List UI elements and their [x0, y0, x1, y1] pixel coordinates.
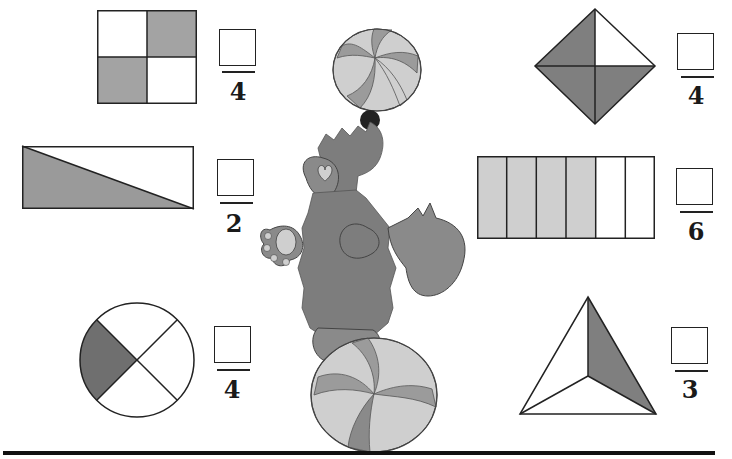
numerator-input-circle[interactable]	[214, 326, 251, 363]
rectangle-halves-figure	[22, 146, 194, 209]
fraction-bar	[220, 202, 253, 204]
square-quarters-figure	[97, 10, 197, 104]
denominator-label: 4	[676, 84, 716, 108]
problem-circle-quarters: 4	[0, 290, 270, 420]
circle-quarters-figure	[79, 302, 195, 418]
triangle-thirds-figure	[520, 297, 656, 414]
rectangle-sixths-figure	[477, 156, 655, 239]
denominator-label: 4	[212, 378, 252, 402]
denominator-label: 3	[670, 378, 710, 402]
diamond-quarters-figure	[535, 9, 655, 124]
fraction-bar	[680, 211, 713, 213]
problem-diamond-quarters: 4	[520, 0, 732, 130]
problem-rectangle-sixths: 6	[470, 140, 732, 260]
problem-triangle-thirds: 3	[500, 290, 732, 420]
fraction-bar	[681, 76, 714, 78]
beach-ball-bottom	[310, 337, 438, 453]
problem-rectangle-halves: 2	[0, 130, 270, 250]
numerator-input-sixths[interactable]	[676, 168, 713, 205]
numerator-input-rectangle-halves[interactable]	[217, 159, 254, 196]
fraction-bar	[217, 369, 250, 371]
denominator-label: 6	[676, 220, 716, 244]
problem-square-quarters: 4	[0, 0, 270, 110]
numerator-input-diamond[interactable]	[677, 33, 714, 70]
denominator-label: 2	[214, 212, 254, 236]
beach-ball-top	[332, 28, 422, 112]
fraction-bar	[675, 370, 708, 372]
bear-illustration	[250, 0, 480, 459]
numerator-input-triangle[interactable]	[671, 327, 708, 364]
page-rule	[3, 451, 715, 455]
